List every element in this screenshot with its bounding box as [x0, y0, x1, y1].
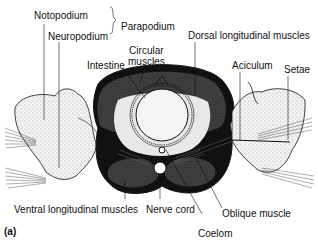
label-aciculum: Aciculum	[232, 60, 273, 71]
label-notopodium: Notopodium	[34, 10, 88, 21]
nerve-cord	[154, 162, 166, 174]
figure-panel-letter: (a)	[4, 226, 16, 237]
label-neuropodium: Neuropodium	[48, 31, 108, 42]
label-ventral-longitudinal-muscles: Ventral longitudinal muscles	[14, 204, 138, 215]
body-cross-section	[94, 65, 253, 194]
label-nerve-cord: Nerve cord	[146, 204, 195, 215]
label-circular-muscles-line1: Circular	[128, 45, 165, 56]
label-dorsal-longitudinal-muscles: Dorsal longitudinal muscles	[188, 30, 310, 41]
ventral-muscle-left	[107, 158, 159, 188]
label-circular-muscles-line2: muscles	[128, 56, 165, 67]
label-circular-muscles: Circular muscles	[128, 45, 165, 67]
label-intestine: Intestine	[87, 60, 125, 71]
label-parapodium: Parapodium	[121, 21, 175, 32]
ventral-muscle-right	[164, 157, 216, 187]
right-parapodium	[232, 82, 314, 188]
label-oblique-muscle: Oblique muscle	[222, 208, 291, 219]
label-setae: Setae	[284, 64, 310, 75]
label-coelom: Coelom	[198, 228, 232, 239]
left-parapodium	[5, 89, 100, 188]
